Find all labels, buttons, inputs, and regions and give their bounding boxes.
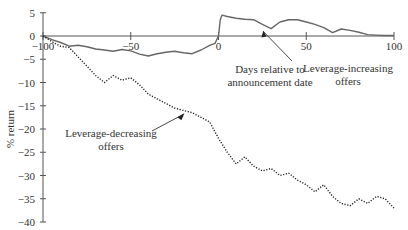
y-tick-label: −40 <box>18 216 36 228</box>
x-axis-label: Days relative to <box>235 63 305 75</box>
x-tick-label: 0 <box>216 40 222 52</box>
leverage-decreasing-label: offers <box>98 140 123 152</box>
leverage-increasing-label: offers <box>335 75 360 87</box>
y-tick-label: −5 <box>23 53 35 65</box>
arrow-head-icon <box>177 113 184 120</box>
y-tick-label: −15 <box>18 100 36 112</box>
x-tick-label: 100 <box>386 40 403 52</box>
annotations: Days relative toannouncement dateLeverag… <box>65 31 393 152</box>
y-axis-label: % return <box>4 109 16 148</box>
axes: 50−5−10−15−20−25−30−35−40−100−50050100% … <box>4 7 403 228</box>
leverage-increasing-label: Leverage-increasing <box>303 62 393 74</box>
x-axis-label: announcement date <box>227 76 312 88</box>
y-tick-label: −20 <box>18 123 36 135</box>
line-chart: 50−5−10−15−20−25−30−35−40−100−50050100% … <box>0 0 408 230</box>
leverage-decreasing-label: Leverage-decreasing <box>65 127 157 139</box>
y-tick-label: −25 <box>18 146 36 158</box>
y-tick-label: 5 <box>30 7 36 19</box>
x-tick-label: −100 <box>32 40 55 52</box>
x-tick-label: 50 <box>301 40 313 52</box>
y-tick-label: −30 <box>18 170 36 182</box>
y-tick-label: −35 <box>18 193 36 205</box>
y-tick-label: −10 <box>18 77 36 89</box>
